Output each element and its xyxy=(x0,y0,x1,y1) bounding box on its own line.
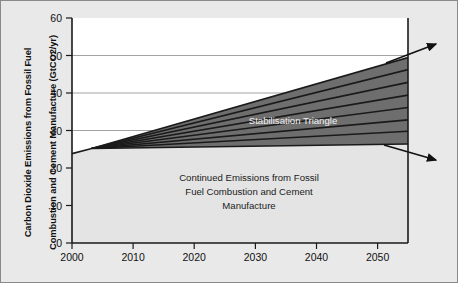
y-tick-label-20: 20 xyxy=(50,162,62,174)
x-tick-label-2000: 2000 xyxy=(60,251,84,263)
chart-figure: Carbon Dioxide Emissions from Fossil Fue… xyxy=(0,0,458,283)
y-axis-ticks xyxy=(66,18,72,243)
continued-emissions-label-line3: Manufacture xyxy=(222,200,275,211)
y-tick-label-0: 0 xyxy=(56,237,62,249)
x-tick-label-2010: 2010 xyxy=(121,251,145,263)
x-tick-label-2050: 2050 xyxy=(366,251,390,263)
y-tick-label-60: 60 xyxy=(50,12,62,24)
x-tick-label-2040: 2040 xyxy=(305,251,329,263)
y-tick-label-30: 30 xyxy=(50,125,62,137)
chart-plot: 60 50 40 30 20 10 0 2000 2010 2020 2030 … xyxy=(1,1,458,283)
x-axis-ticks xyxy=(72,243,378,249)
y-tick-label-40: 40 xyxy=(50,87,62,99)
x-tick-label-2020: 2020 xyxy=(183,251,207,263)
continued-emissions-label-line2: Fuel Combustion and Cement xyxy=(185,186,313,197)
continued-emissions-label-line1: Continued Emissions from Fossil xyxy=(179,172,319,183)
y-tick-label-50: 50 xyxy=(50,50,62,62)
x-tick-label-2030: 2030 xyxy=(244,251,268,263)
y-tick-label-10: 10 xyxy=(50,200,62,212)
stabilisation-triangle-label: Stabilisation Triangle xyxy=(249,115,338,126)
